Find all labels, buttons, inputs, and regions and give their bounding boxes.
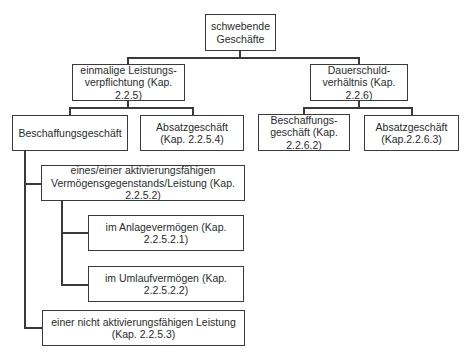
node-nicht-aktivierungsfaehig: einer nicht aktivierungsfähigen Leistung… (42, 310, 245, 346)
node-einmalige-leistungsverpflichtung: einmalige Leistungs-verpflichtung (Kap. … (72, 64, 185, 101)
connector (127, 57, 359, 59)
node-beschaffungsgeschaeft-dauer: Beschaffungs-geschäft (Kap. 2.2.6.2) (258, 114, 350, 151)
node-label: Dauerschuld-verhältnis (Kap. 2.2.6) (314, 64, 404, 102)
connector (61, 232, 89, 234)
node-label: im Umlaufvermögen (Kap. 2.2.5.2.2) (92, 272, 240, 297)
node-absatzgeschaeft-dauer: Absatzgeschäft (Kap.2.2.6.3) (364, 115, 459, 151)
connector (24, 327, 42, 329)
diagram-canvas: schwebende Geschäfte einmalige Leistungs… (0, 0, 469, 358)
node-absatzgeschaeft-einmalig: Absatzgeschäft (Kap. 2.2.5.4) (140, 115, 244, 151)
connector (24, 150, 26, 328)
node-label: schwebende Geschäfte (209, 20, 272, 45)
node-dauerschuldverhaeltnis: Dauerschuld-verhältnis (Kap. 2.2.6) (310, 64, 408, 101)
node-label: Beschaffungsgeschäft (18, 127, 121, 140)
node-label: Absatzgeschäft (Kap. 2.2.5.4) (144, 121, 240, 146)
node-root: schwebende Geschäfte (205, 14, 276, 51)
connector (69, 107, 193, 109)
connector (61, 200, 63, 285)
connector (24, 183, 42, 185)
node-beschaffungsgeschaeft: Beschaffungsgeschäft (12, 115, 128, 151)
node-label: einmalige Leistungs-verpflichtung (Kap. … (76, 64, 181, 102)
node-anlagevermoegen: im Anlagevermögen (Kap. 2.2.5.2.1) (88, 215, 244, 251)
node-label: Beschaffungs-geschäft (Kap. 2.2.6.2) (262, 114, 346, 152)
node-aktivierungsfaehig: eines/einer aktivierungsfähigen Vermögen… (41, 165, 245, 201)
node-label: einer nicht aktivierungsfähigen Leistung… (46, 316, 241, 341)
connector (303, 107, 412, 109)
node-label: eines/einer aktivierungsfähigen Vermögen… (45, 164, 241, 202)
node-umlaufvermoegen: im Umlaufvermögen (Kap. 2.2.5.2.2) (88, 266, 244, 302)
node-label: Absatzgeschäft (Kap.2.2.6.3) (368, 121, 455, 146)
node-label: im Anlagevermögen (Kap. 2.2.5.2.1) (92, 221, 240, 246)
connector (61, 284, 89, 286)
